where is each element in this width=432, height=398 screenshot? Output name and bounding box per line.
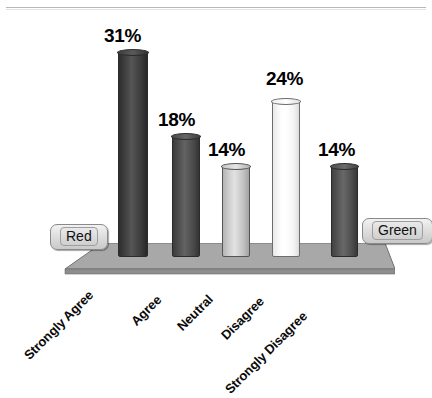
bar-value-label-neutral: 14% — [208, 139, 245, 161]
bar-body — [272, 101, 300, 257]
bar-body — [331, 166, 358, 257]
bar-top-cap — [117, 49, 149, 56]
bar-body — [222, 166, 250, 257]
bar-top-cap — [171, 133, 201, 140]
bar-strongly-agree — [118, 52, 148, 257]
bar-value-label-strongly-agree: 31% — [104, 25, 141, 47]
bar-body — [118, 52, 148, 257]
bar-disagree — [272, 101, 300, 257]
bar-value-label-disagree: 24% — [266, 68, 303, 90]
left-end-badge-red: Red — [50, 224, 108, 250]
right-end-badge-label: Green — [372, 221, 423, 240]
category-label-agree: Agree — [128, 292, 164, 328]
bar-body — [172, 136, 200, 257]
bar-top-cap — [221, 163, 251, 170]
bar-value-label-agree: 18% — [158, 109, 195, 131]
floor-front-edge — [65, 269, 395, 274]
bar-neutral — [222, 166, 250, 257]
category-label-disagree: Disagree — [218, 294, 267, 343]
category-label-neutral: Neutral — [174, 292, 216, 334]
bar-agree — [172, 136, 200, 257]
category-label-strongly-agree: Strongly Agree — [21, 287, 96, 362]
bar-chart-plot-area: 31% 18% 14% 24% 14% Red Green — [0, 0, 432, 398]
left-end-badge-label: Red — [60, 227, 98, 246]
chart-screenshot: 31% 18% 14% 24% 14% Red Green — [0, 0, 432, 398]
bar-value-label-strongly-disagree: 14% — [318, 139, 355, 161]
bar-strongly-disagree — [331, 166, 358, 257]
bar-top-cap — [330, 163, 359, 170]
bar-top-cap — [271, 98, 301, 105]
right-end-badge-green: Green — [362, 218, 432, 244]
